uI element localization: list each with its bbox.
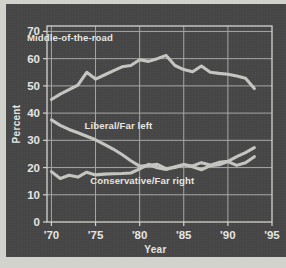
series-label: Liberal/Far left xyxy=(85,120,153,131)
y-axis-title: Percent xyxy=(11,104,22,143)
line-chart-plot: 010203040506070 '70'75'80'85'90'95 Middl… xyxy=(6,4,286,257)
y-tick-label: 60 xyxy=(27,53,40,65)
data-series-lines xyxy=(51,55,254,178)
series-label: Conservative/Far right xyxy=(90,175,195,186)
y-tick-label: 0 xyxy=(34,216,40,228)
y-tick-label: 50 xyxy=(27,80,40,92)
series-line xyxy=(51,120,254,169)
chart-panel: 010203040506070 '70'75'80'85'90'95 Middl… xyxy=(6,4,286,257)
figure-bottom-margin xyxy=(0,257,286,268)
x-tick-label: '75 xyxy=(88,229,104,241)
series-line xyxy=(51,55,254,99)
axes-frame xyxy=(47,26,272,222)
series-annotations: Middle-of-the-roadLiberal/Far leftConser… xyxy=(27,32,195,186)
y-tick-label: 20 xyxy=(27,162,40,174)
plot-frame xyxy=(47,26,272,222)
x-axis-title: Year xyxy=(144,244,166,255)
series-label: Middle-of-the-road xyxy=(27,32,113,43)
y-axis-ticks: 010203040506070 xyxy=(27,25,47,228)
x-tick-label: '70 xyxy=(44,229,60,241)
chart-figure: 010203040506070 '70'75'80'85'90'95 Middl… xyxy=(0,0,286,268)
y-tick-label: 40 xyxy=(27,107,40,119)
y-tick-label: 30 xyxy=(27,134,40,146)
x-tick-label: '85 xyxy=(176,229,192,241)
gridlines xyxy=(47,26,272,222)
y-tick-label: 10 xyxy=(27,189,40,201)
x-tick-label: '90 xyxy=(220,229,236,241)
x-tick-label: '80 xyxy=(132,229,148,241)
x-axis-ticks: '70'75'80'85'90'95 xyxy=(44,222,281,241)
x-tick-label: '95 xyxy=(264,229,280,241)
